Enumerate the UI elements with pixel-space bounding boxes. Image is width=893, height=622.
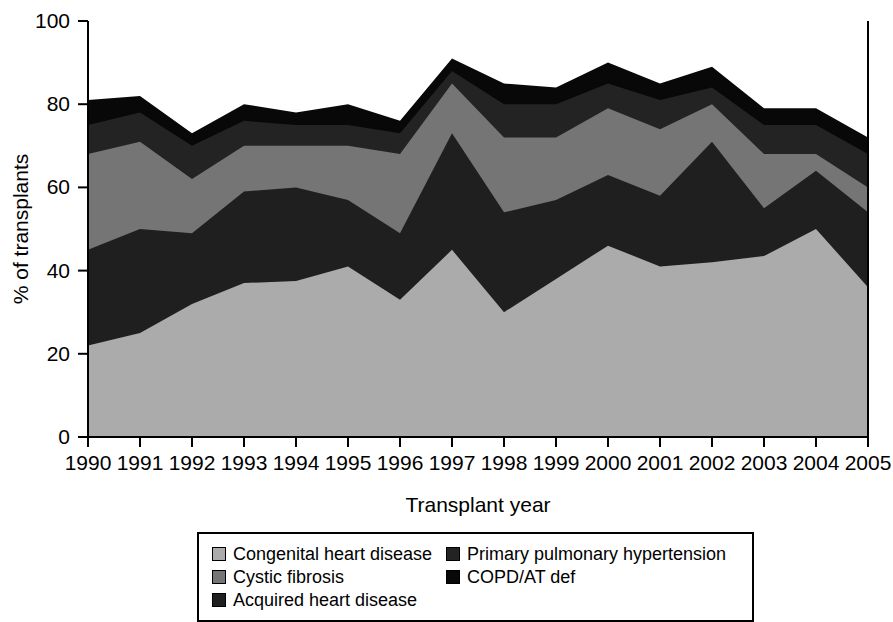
y-axis-title: % of transplants (9, 154, 32, 305)
legend-swatch-icon (212, 570, 226, 584)
legend-swatch-icon (446, 547, 460, 561)
legend-label: Congenital heart disease (233, 545, 432, 563)
legend-label: Cystic fibrosis (233, 568, 344, 586)
legend-entry: Acquired heart disease (212, 588, 432, 611)
legend-column-left: Congenital heart diseaseCystic fibrosisA… (212, 542, 432, 611)
y-tick-label: 0 (58, 425, 70, 448)
legend-label: Acquired heart disease (233, 591, 417, 609)
x-tick-label: 1993 (221, 451, 268, 474)
x-tick-label: 2001 (637, 451, 684, 474)
x-tick-label: 2002 (689, 451, 736, 474)
x-tick-group: 1990199119921993199419951996199719981999… (65, 437, 892, 474)
x-tick-label: 1991 (117, 451, 164, 474)
y-tick-label: 100 (35, 9, 70, 32)
y-tick-label: 80 (47, 92, 70, 115)
y-tick-label: 20 (47, 342, 70, 365)
x-tick-label: 2000 (585, 451, 632, 474)
legend-entry: Primary pulmonary hypertension (446, 542, 726, 565)
y-tick-group: 020406080100 (35, 9, 88, 448)
legend-column-right: Primary pulmonary hypertensionCOPD/AT de… (446, 542, 726, 588)
legend-swatch-icon (212, 593, 226, 607)
x-tick-label: 2003 (741, 451, 788, 474)
x-tick-label: 1992 (169, 451, 216, 474)
series-group (88, 58, 868, 437)
legend-swatch-icon (212, 547, 226, 561)
legend-entry: Cystic fibrosis (212, 565, 432, 588)
x-tick-label: 1998 (481, 451, 528, 474)
legend-swatch-icon (446, 570, 460, 584)
x-tick-label: 1994 (273, 451, 320, 474)
y-tick-label: 60 (47, 175, 70, 198)
legend-entry: Congenital heart disease (212, 542, 432, 565)
x-tick-label: 1996 (377, 451, 424, 474)
legend-entry: COPD/AT def (446, 565, 726, 588)
legend-label: Primary pulmonary hypertension (467, 545, 726, 563)
x-tick-label: 2004 (793, 451, 840, 474)
x-tick-label: 1995 (325, 451, 372, 474)
x-axis-title: Transplant year (405, 493, 550, 516)
x-tick-label: 1999 (533, 451, 580, 474)
x-tick-label: 1990 (65, 451, 112, 474)
legend-label: COPD/AT def (467, 568, 575, 586)
x-tick-label: 2005 (845, 451, 892, 474)
chart-legend: Congenital heart diseaseCystic fibrosisA… (197, 532, 754, 622)
x-tick-label: 1997 (429, 451, 476, 474)
y-tick-label: 40 (47, 259, 70, 282)
